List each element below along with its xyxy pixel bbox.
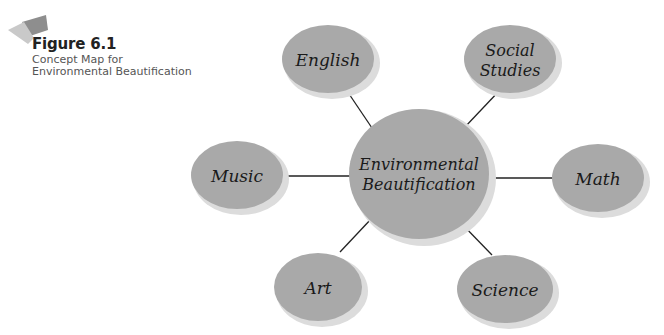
center-label-line1: Environmental [358, 155, 479, 174]
center-label-line2: Beautification [361, 175, 475, 194]
node-art[interactable]: Art [274, 253, 368, 327]
music-label: Music [210, 166, 264, 186]
art-label: Art [302, 278, 331, 298]
science-label: Science [471, 280, 538, 300]
node-social-studies[interactable]: Social Studies [464, 25, 562, 99]
concept-map: Environmental Beautification English Soc… [0, 0, 664, 335]
node-math[interactable]: Math [552, 144, 650, 218]
node-music[interactable]: Music [191, 141, 289, 215]
node-science[interactable]: Science [457, 255, 559, 329]
node-center[interactable]: Environmental Beautification [349, 109, 496, 246]
connector-art [340, 218, 372, 252]
node-english[interactable]: English [282, 25, 380, 99]
social-studies-label-line2: Studies [480, 61, 541, 80]
math-label: Math [574, 169, 620, 189]
social-studies-label-line1: Social [485, 41, 534, 60]
english-label: English [295, 50, 361, 70]
